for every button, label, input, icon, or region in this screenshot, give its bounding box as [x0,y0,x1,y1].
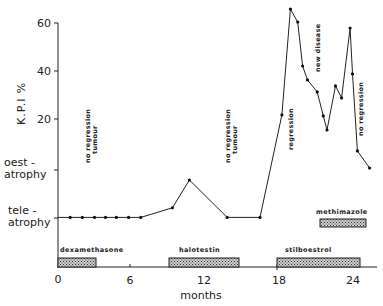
data-point [349,26,352,29]
treatment-bar-stilboestrol [277,258,360,267]
data-point [115,216,118,219]
kpi-series-points [69,8,372,219]
data-point [139,216,142,219]
kpi-series-line [58,9,370,217]
data-point [104,216,107,219]
data-point [258,216,261,219]
data-point [69,216,72,219]
drug-label-methimazole: methimazole [316,208,368,216]
data-point [356,149,359,152]
y-tick-oest-line2: atrophy [4,168,47,181]
data-point [322,114,325,117]
data-point [316,90,319,93]
treatment-bar-halotestin [169,258,239,267]
data-point [289,8,292,11]
y-axis: 60 40 20 oest - atrophy tele - atrophy K… [4,17,58,268]
drug-label-dexamethasone: dexamethasone [60,246,124,254]
data-point [188,178,191,181]
annotation-tumour-2: tumour [231,125,239,154]
annotation-new-disease: new disease [314,23,322,72]
y-tick-60: 60 [37,17,51,30]
drug-label-stilboestrol: stilboestrol [285,246,332,254]
data-point [334,84,337,87]
data-point [306,78,309,81]
data-point [127,216,130,219]
data-point [81,216,84,219]
data-point [296,20,299,23]
annotation-regression: regression [287,108,295,150]
data-point [226,216,229,219]
y-tick-40: 40 [37,65,51,78]
annotations: no regression tumour no regression tumou… [84,23,365,163]
data-point [340,96,343,99]
data-point [368,166,371,169]
data-point [301,64,304,67]
data-point [280,113,283,116]
data-point [93,216,96,219]
data-point [351,72,354,75]
y-tick-20: 20 [37,113,51,126]
treatment-bar-dexamethasone [58,258,96,267]
x-axis: 0 6 12 18 24 months [55,264,378,302]
y-tick-tele-line2: atrophy [8,216,51,229]
drug-label-halotestin: halotestin [179,246,220,254]
y-axis-label: K.P.I % [15,82,28,125]
x-tick-6: 6 [127,274,134,287]
x-tick-0: 0 [55,273,62,286]
x-tick-18: 18 [272,274,286,287]
x-tick-24: 24 [346,274,360,287]
annotation-no-regression-3: no regression [357,82,365,136]
x-tick-12: 12 [197,274,211,287]
treatment-bar-methimazole [320,219,366,227]
x-axis-label: months [180,289,222,302]
data-point [325,128,328,131]
kpi-chart: 60 40 20 oest - atrophy tele - atrophy K… [0,0,383,306]
annotation-tumour-1: tumour [91,125,99,154]
data-point [171,206,174,209]
